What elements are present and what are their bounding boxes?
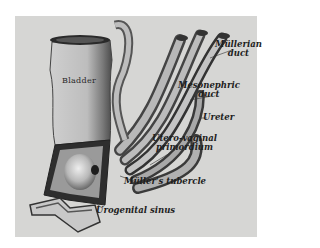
mullerian-duct-label-line2: duct (215, 49, 262, 58)
mullers-tubercle-shape (64, 154, 96, 190)
utero-vaginal-label-line2: primordium (152, 143, 217, 152)
ducts (120, 30, 230, 188)
mullers-tubercle-label: Müller's tubercle (124, 177, 206, 186)
ureter-label: Ureter (203, 113, 234, 122)
mesonephric-duct-label-line2: duct (178, 90, 240, 99)
bladder-label: Bladder (62, 76, 96, 85)
urogenital-sinus-label: Urogenital sinus (96, 206, 175, 215)
bladder-shape (50, 40, 112, 145)
mesonephric-duct-label: Mesonephric duct (178, 81, 240, 99)
mullerian-duct-label: Müllerian duct (215, 40, 262, 58)
utero-vaginal-primordium-label: Utero-vaginal primordium (152, 134, 217, 152)
